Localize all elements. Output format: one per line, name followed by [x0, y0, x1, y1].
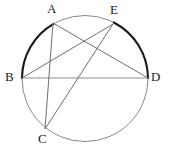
chord-c-e [45, 24, 113, 129]
chord-b-e [22, 24, 113, 78]
vertex-label-b: B [5, 70, 14, 83]
geometry-canvas [0, 0, 169, 154]
vertex-label-a: A [47, 2, 56, 15]
arc-b-to-a [22, 24, 54, 78]
highlighted-arc-layer [22, 22, 148, 78]
geometry-figure: AEBDC [0, 0, 169, 154]
vertex-label-e: E [110, 3, 118, 16]
chord-layer [22, 23, 148, 129]
arc-e-to-d [114, 22, 148, 78]
vertex-label-c: C [38, 132, 47, 145]
vertex-label-d: D [151, 70, 160, 83]
chord-a-c [45, 23, 53, 129]
